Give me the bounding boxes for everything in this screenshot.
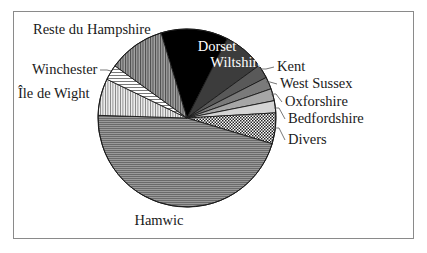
slice-label: Bedfordshire (288, 110, 364, 126)
slice-label: Kent (277, 58, 305, 74)
slice-label: Reste du Hampshire (33, 21, 151, 37)
slice-label: Winchester (32, 61, 98, 77)
slice-label: Île de Wight (18, 85, 90, 101)
slice-label: Divers (288, 131, 327, 147)
slice-label: Wiltshire (210, 54, 263, 70)
leader-line (100, 70, 111, 71)
slice-label: West Sussex (280, 75, 353, 91)
pie-chart: DorsetWiltshireKentWest SussexOxforshire… (0, 0, 427, 253)
slice-label: Dorset (198, 38, 237, 54)
slice-label: Oxforshire (285, 93, 348, 109)
slice-label: Hamwic (134, 212, 183, 228)
